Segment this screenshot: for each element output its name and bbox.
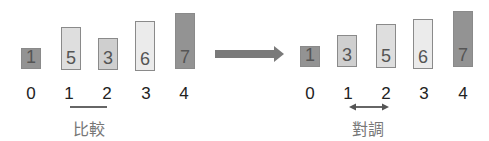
swap-double-arrow-icon: [349, 104, 389, 111]
right-arrow-icon: [215, 46, 284, 62]
diagram-graphics: [0, 0, 489, 141]
